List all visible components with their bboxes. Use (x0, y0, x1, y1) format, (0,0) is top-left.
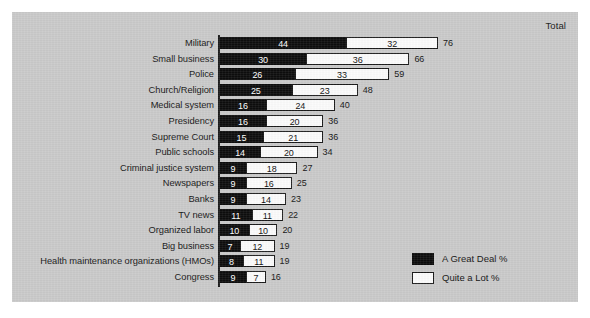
bar-row-label: Criminal justice system (120, 162, 214, 174)
bar-row: Medical system162440 (12, 99, 578, 111)
bar-row: Small business303666 (12, 53, 578, 65)
bar-segment-great-deal: 7 (220, 240, 240, 252)
bar-row-label: Newspapers (163, 177, 214, 189)
bar-segment-quite-a-lot: 10 (249, 224, 278, 236)
bar-row-label: Police (189, 68, 214, 80)
legend-swatch-great-deal (412, 253, 434, 265)
bar-segment-quite-a-lot: 12 (240, 240, 274, 252)
bar-segment-great-deal: 9 (220, 193, 246, 205)
chart-screenshot: Total Military443276Small business303666… (0, 0, 590, 318)
bar-segment-quite-a-lot: 11 (252, 209, 284, 221)
bar-row: Newspapers91625 (12, 177, 578, 189)
bar-segment-great-deal: 16 (220, 99, 266, 111)
bar-total-value: 76 (443, 37, 453, 49)
bar-row-label: Presidency (169, 115, 215, 127)
bar-row: Public schools142034 (12, 146, 578, 158)
stacked-bar: 1620 (220, 115, 323, 127)
bar-segment-great-deal: 25 (220, 84, 292, 96)
bar-row: Presidency162036 (12, 115, 578, 127)
bar-segment-great-deal: 10 (220, 224, 249, 236)
bar-segment-great-deal: 26 (220, 68, 295, 80)
bar-row-label: Public schools (155, 146, 214, 158)
bar-segment-great-deal: 30 (220, 53, 306, 65)
bar-segment-great-deal: 16 (220, 115, 266, 127)
stacked-bar: 1624 (220, 99, 335, 111)
bar-row-label: Church/Religion (149, 84, 214, 96)
bar-segment-quite-a-lot: 24 (266, 99, 335, 111)
bar-segment-quite-a-lot: 7 (246, 271, 266, 283)
bar-total-value: 48 (363, 84, 373, 96)
stacked-bar: 2633 (220, 68, 389, 80)
bar-total-value: 22 (288, 209, 298, 221)
bar-total-value: 40 (340, 99, 350, 111)
bar-segment-quite-a-lot: 32 (346, 37, 438, 49)
stacked-bar: 916 (220, 177, 292, 189)
plot-area: Total Military443276Small business303666… (12, 12, 578, 302)
bar-total-value: 19 (280, 240, 290, 252)
legend-label-great-deal: A Great Deal % (442, 252, 507, 266)
stacked-bar: 811 (220, 255, 275, 267)
bar-total-value: 36 (328, 115, 338, 127)
bar-row: Big business71219 (12, 240, 578, 252)
stacked-bar: 918 (220, 162, 297, 174)
bar-total-value: 20 (282, 224, 292, 236)
bar-segment-quite-a-lot: 36 (306, 53, 409, 65)
bar-row-label: Health maintenance organizations (HMOs) (40, 255, 214, 267)
bar-row: Organized labor101020 (12, 224, 578, 236)
bar-segment-great-deal: 8 (220, 255, 243, 267)
bar-segment-quite-a-lot: 11 (243, 255, 275, 267)
bar-total-value: 36 (328, 131, 338, 143)
bar-total-value: 23 (291, 193, 301, 205)
bar-row: Police263359 (12, 68, 578, 80)
bar-segment-quite-a-lot: 20 (266, 115, 323, 127)
bar-segment-quite-a-lot: 33 (295, 68, 390, 80)
stacked-bar: 712 (220, 240, 275, 252)
chart-legend: A Great Deal % Quite a Lot % (412, 252, 562, 290)
bar-segment-great-deal: 44 (220, 37, 346, 49)
bar-row-label: Banks (188, 193, 214, 205)
total-column-header: Total (545, 20, 566, 31)
bar-segment-great-deal: 9 (220, 271, 246, 283)
bar-total-value: 66 (414, 53, 424, 65)
stacked-bar: 1111 (220, 209, 283, 221)
bar-segment-great-deal: 14 (220, 146, 260, 158)
bar-row-label: Big business (162, 240, 214, 252)
stacked-bar: 2523 (220, 84, 358, 96)
legend-item-quite-a-lot: Quite a Lot % (412, 271, 562, 287)
bar-row-label: Supreme Court (152, 131, 214, 143)
bar-segment-great-deal: 11 (220, 209, 252, 221)
bar-row: Criminal justice system91827 (12, 162, 578, 174)
bar-segment-quite-a-lot: 18 (246, 162, 298, 174)
bar-total-value: 59 (394, 68, 404, 80)
bar-row: Banks91423 (12, 193, 578, 205)
bar-row-label: Organized labor (149, 224, 214, 236)
bar-row: Supreme Court152136 (12, 131, 578, 143)
bar-total-value: 25 (297, 177, 307, 189)
chart-panel: Total Military443276Small business303666… (12, 12, 578, 302)
bar-segment-great-deal: 9 (220, 162, 246, 174)
bar-row-label: Small business (152, 53, 214, 65)
bar-row: Military443276 (12, 37, 578, 49)
bar-segment-great-deal: 9 (220, 177, 246, 189)
bar-total-value: 16 (271, 271, 281, 283)
stacked-bar: 4432 (220, 37, 438, 49)
bar-segment-great-deal: 15 (220, 131, 263, 143)
bar-segment-quite-a-lot: 14 (246, 193, 286, 205)
bar-segment-quite-a-lot: 23 (292, 84, 358, 96)
bar-row: TV news111122 (12, 209, 578, 221)
bar-segment-quite-a-lot: 20 (260, 146, 317, 158)
bar-row: Church/Religion252348 (12, 84, 578, 96)
stacked-bar: 1010 (220, 224, 277, 236)
bar-row-label: Medical system (151, 99, 214, 111)
stacked-bar: 3036 (220, 53, 409, 65)
bar-total-value: 27 (302, 162, 312, 174)
bar-segment-quite-a-lot: 16 (246, 177, 292, 189)
legend-swatch-quite-a-lot (412, 272, 434, 284)
bar-total-value: 34 (323, 146, 333, 158)
bar-row-label: Military (185, 37, 214, 49)
bar-row-label: TV news (178, 209, 214, 221)
legend-item-great-deal: A Great Deal % (412, 252, 562, 268)
bar-segment-quite-a-lot: 21 (263, 131, 323, 143)
bar-total-value: 19 (280, 255, 290, 267)
stacked-bar: 914 (220, 193, 286, 205)
